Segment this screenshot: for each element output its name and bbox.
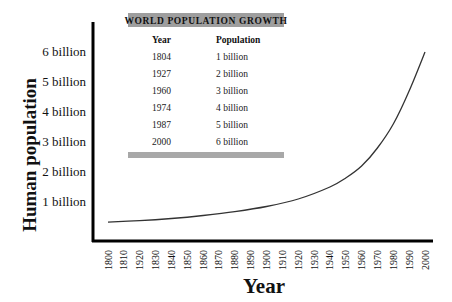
- x-tick-label: 1860: [198, 250, 209, 270]
- y-tick-label: 3 billion: [42, 134, 86, 149]
- table-rows: 18041 billion19272 billion19603 billion1…: [152, 52, 248, 147]
- x-tick-label: 1800: [103, 250, 114, 270]
- table-bottom-bar: [128, 152, 284, 158]
- x-tick-label: 1880: [229, 250, 240, 270]
- table-cell-year: 1927: [152, 69, 171, 79]
- table-cell-year: 1987: [152, 120, 171, 130]
- x-tick-labels: 1800181019201830184018501860187018801890…: [103, 250, 431, 270]
- x-tick-label: 1900: [261, 250, 272, 270]
- table-cell-year: 1804: [152, 52, 171, 62]
- table-header-population: Population: [216, 35, 261, 45]
- y-tick-label: 6 billion: [42, 44, 86, 59]
- table-cell-population: 5 billion: [216, 120, 248, 130]
- x-tick-label: 1920: [134, 250, 145, 270]
- x-tick-label: 1870: [213, 250, 224, 270]
- x-tick-label: 1970: [372, 250, 383, 270]
- y-tick-label: 5 billion: [42, 74, 86, 89]
- table-cell-year: 1960: [152, 86, 171, 96]
- population-chart: 1 billion2 billion3 billion4 billion5 bi…: [0, 0, 452, 302]
- table-cell-population: 2 billion: [216, 69, 248, 79]
- table-cell-population: 6 billion: [216, 137, 248, 147]
- y-tick-label: 1 billion: [42, 194, 86, 209]
- inset-table: WORLD POPULATION GROWTH Year Population …: [125, 13, 288, 158]
- x-tick-label: 1810: [118, 250, 129, 270]
- x-tick-label: 1830: [150, 250, 161, 270]
- table-cell-year: 2000: [152, 137, 171, 147]
- table-cell-year: 1974: [152, 103, 171, 113]
- y-tick-label: 4 billion: [42, 104, 86, 119]
- x-tick-label: 1920: [293, 250, 304, 270]
- y-tick-label: 2 billion: [42, 164, 86, 179]
- x-tick-label: 1850: [182, 250, 193, 270]
- x-tick-label: 1960: [356, 250, 367, 270]
- x-tick-label: 1930: [309, 250, 320, 270]
- table-cell-population: 1 billion: [216, 52, 248, 62]
- table-cell-population: 4 billion: [216, 103, 248, 113]
- x-tick-label: 1910: [277, 250, 288, 270]
- x-tick-label: 1890: [245, 250, 256, 270]
- x-tick-label: 1940: [324, 250, 335, 270]
- y-axis-title: Human population: [19, 78, 40, 232]
- table-header-year: Year: [152, 35, 172, 45]
- x-tick-label: 1990: [404, 250, 415, 270]
- x-tick-label: 2000: [420, 250, 431, 270]
- y-tick-labels: 1 billion2 billion3 billion4 billion5 bi…: [42, 44, 86, 209]
- x-axis-title: Year: [243, 274, 285, 298]
- x-tick-label: 1840: [166, 250, 177, 270]
- x-tick-label: 1950: [340, 250, 351, 270]
- table-cell-population: 3 billion: [216, 86, 248, 96]
- table-title: WORLD POPULATION GROWTH: [125, 16, 288, 26]
- x-tick-label: 1980: [388, 250, 399, 270]
